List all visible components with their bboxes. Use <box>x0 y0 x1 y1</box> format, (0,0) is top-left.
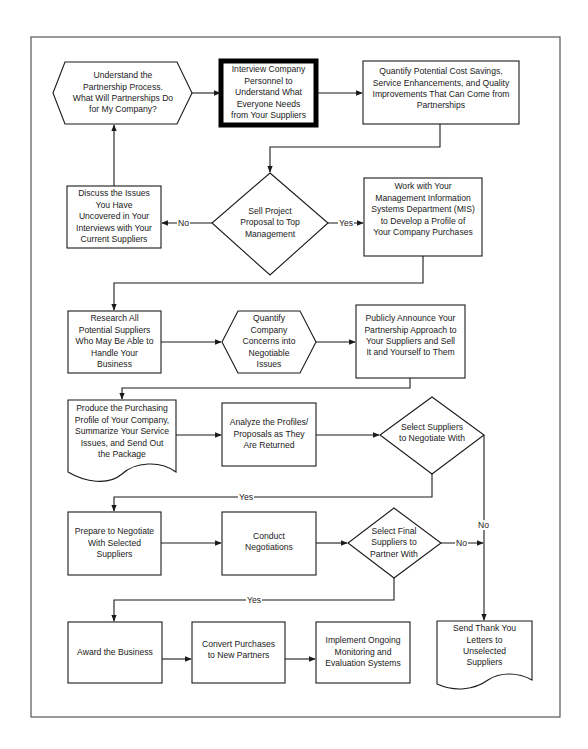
text-convert-purchases: Convert Purchases to New Partners <box>192 622 285 678</box>
text-conduct-negotiations: Conduct Negotiations <box>222 512 316 572</box>
edge-label-yes-prepare: Yes <box>238 492 254 502</box>
text-send-thank-you: Send Thank You Letters to Unselected Sup… <box>437 621 532 671</box>
edge-label-no-discuss: No <box>177 218 190 228</box>
text-discuss-issues: Discuss the Issues You Have Uncovered in… <box>67 186 161 248</box>
edge-n3-n4 <box>270 124 440 172</box>
text-sell-proposal: Sell Project Proposal to Top Management <box>228 199 312 247</box>
text-interview-personnel: Interview Company Personnel to Understan… <box>224 63 313 123</box>
text-work-with-mis: Work with Your Management Information Sy… <box>364 178 482 242</box>
text-quantify-savings: Quantify Potential Cost Savings, Service… <box>364 61 518 117</box>
text-research-suppliers: Research All Potential Suppliers Who May… <box>68 311 161 373</box>
edge-label-no-thankyou-vertical: No <box>477 520 490 530</box>
edge-label-yes-award: Yes <box>246 595 262 605</box>
text-award-business: Award the Business <box>68 622 162 683</box>
edge-n9-n10 <box>122 378 410 399</box>
edge-label-no-final: No <box>455 538 468 548</box>
text-analyze-profiles: Analyze the Profiles/ Proposals as They … <box>222 403 316 466</box>
text-produce-profile: Produce the Purchasing Profile of Your C… <box>68 400 176 464</box>
outer-frame <box>31 37 560 717</box>
edge-n12-n13 <box>114 474 432 511</box>
text-quantify-concerns: Quantify Company Concerns into Negotiabl… <box>232 311 306 373</box>
text-select-suppliers: Select Suppliers to Negotiate With <box>388 410 476 456</box>
text-prepare-negotiate: Prepare to Negotiate With Selected Suppl… <box>68 512 161 575</box>
edge-label-yes-work: Yes <box>338 218 354 228</box>
text-publicly-announce: Publicly Announce Your Partnership Appro… <box>356 305 465 367</box>
text-select-final: Select Final Suppliers to Partner With <box>358 520 430 566</box>
text-understand-partnership: Understand the Partnership Process. What… <box>62 62 184 124</box>
text-implement-monitoring: Implement Ongoing Monitoring and Evaluat… <box>316 622 410 683</box>
